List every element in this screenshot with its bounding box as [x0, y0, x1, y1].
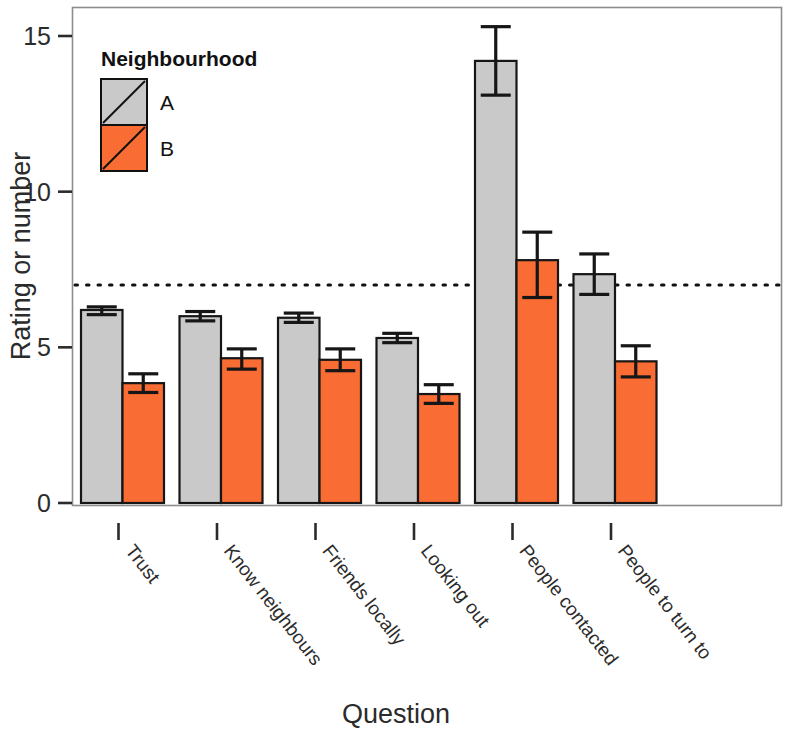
bar-b-0 [123, 383, 165, 503]
y-tick-label: 5 [37, 333, 51, 361]
error-bar-group [87, 27, 651, 404]
legend-entries: AB [101, 79, 174, 171]
chart-canvas: 051015 Rating or number TrustKnow neighb… [0, 0, 792, 733]
bar-a-4 [475, 61, 517, 503]
legend-label-a: A [160, 91, 174, 114]
legend-entry-b: B [101, 125, 174, 171]
x-tick-label-0: Trust [121, 541, 164, 588]
bar-chart: 051015 Rating or number TrustKnow neighb… [0, 0, 792, 733]
x-axis-title: Question [342, 699, 450, 729]
bar-b-3 [418, 394, 460, 503]
bar-a-0 [81, 310, 123, 503]
legend-title: Neighbourhood [101, 47, 257, 70]
legend-label-b: B [160, 137, 174, 160]
bar-a-5 [574, 274, 616, 503]
x-axis-category-labels: TrustKnow neighboursFriends locallyLooki… [121, 541, 716, 670]
bar-b-5 [615, 361, 657, 503]
bar-b-2 [320, 360, 362, 503]
x-tick-label-5: People to turn to [614, 541, 716, 664]
x-tick-label-2: Friends locally [318, 541, 410, 650]
y-tick-label: 0 [37, 489, 51, 517]
bar-b-1 [221, 358, 263, 503]
bar-a-2 [278, 318, 320, 503]
bar-a-3 [377, 338, 419, 503]
y-tick-label: 15 [23, 22, 51, 50]
y-axis-title: Rating or number [6, 152, 36, 361]
x-tick-label-3: Looking out [417, 541, 494, 632]
x-tick-label-4: People contacted [515, 541, 622, 670]
legend-entry-a: A [101, 79, 174, 125]
bar-a-1 [180, 316, 222, 503]
legend: Neighbourhood AB [101, 47, 257, 171]
x-tick-label-1: Know neighbours [220, 541, 327, 670]
x-axis-ticks [119, 523, 612, 540]
bar-group [81, 61, 657, 503]
